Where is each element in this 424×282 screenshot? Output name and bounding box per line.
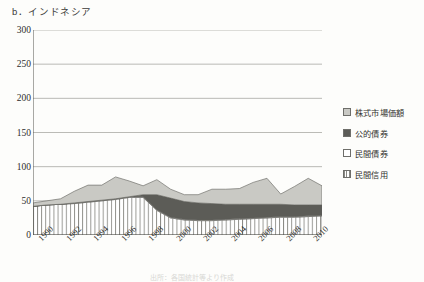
legend-swatch-private-credit	[343, 170, 351, 178]
y-axis-tick-label: 300	[3, 25, 31, 35]
y-axis: 050100150200250300	[0, 30, 31, 235]
y-axis-tick-label: 200	[3, 93, 31, 103]
y-axis-tick-label: 150	[3, 128, 31, 138]
legend-item[interactable]: 民間信用	[343, 168, 423, 180]
y-axis-tick-label: 0	[3, 230, 31, 240]
stacked-area-plot	[33, 30, 322, 235]
legend-label: 公的債券	[355, 127, 388, 139]
legend-swatch-private-bonds	[343, 149, 351, 157]
legend-label: 民間債券	[355, 147, 388, 159]
y-axis-tick-label: 50	[3, 196, 31, 206]
legend-item[interactable]: 株式市場価額	[343, 106, 423, 118]
legend-label: 民間信用	[355, 168, 388, 180]
legend-item[interactable]: 公的債券	[343, 127, 423, 139]
page-title: b．インドネシア	[12, 4, 92, 18]
legend-swatch-public-bonds	[343, 129, 351, 137]
legend-label: 株式市場価額	[355, 106, 404, 118]
legend-swatch-equity-market-cap	[343, 108, 351, 116]
source-caption: 出所：各国統計等より作成	[150, 272, 234, 282]
y-axis-tick-label: 250	[3, 59, 31, 69]
gridlines	[33, 30, 322, 201]
legend: 株式市場価額公的債券民間債券民間信用	[343, 106, 423, 188]
plot-area	[33, 30, 322, 235]
y-axis-tick-label: 100	[3, 162, 31, 172]
legend-item[interactable]: 民間債券	[343, 147, 423, 159]
